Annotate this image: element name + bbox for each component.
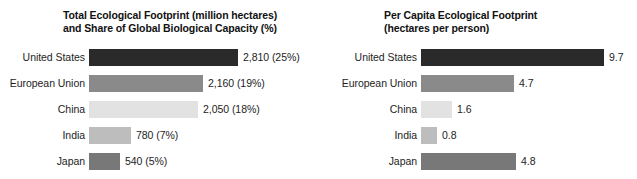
bar-united-states	[421, 49, 604, 66]
bar-value-label: 0.8	[442, 129, 456, 141]
bar-value-label: 4.7	[519, 77, 533, 89]
bar-china	[421, 101, 452, 118]
bar-row: India 780 (7%)	[0, 122, 320, 148]
chart-title-total-footprint: Total Ecological Footprint (million hect…	[63, 9, 277, 35]
category-label: India	[320, 129, 421, 141]
category-label: India	[0, 129, 89, 141]
bar-row: European Union 4.7	[320, 70, 637, 96]
bar-row: Japan 4.8	[320, 148, 637, 174]
bar-india	[89, 127, 131, 144]
category-label: Japan	[0, 155, 89, 167]
bar-value-label: 4.8	[521, 155, 535, 167]
category-label: Japan	[320, 155, 421, 167]
bar-track: 1.6	[421, 101, 637, 118]
bar-value-label: 2,810 (25%)	[243, 51, 300, 63]
category-label: China	[0, 103, 89, 115]
bar-india	[421, 127, 437, 144]
bar-united-states	[89, 49, 238, 66]
bar-value-label: 780 (7%)	[136, 129, 178, 141]
category-label: European Union	[0, 77, 89, 89]
bar-track: 540 (5%)	[89, 153, 320, 170]
bar-track: 4.8	[421, 153, 637, 170]
category-label: European Union	[320, 77, 421, 89]
bar-china	[89, 101, 198, 118]
bar-row: Japan 540 (5%)	[0, 148, 320, 174]
bar-japan	[89, 153, 120, 170]
bar-japan	[421, 153, 516, 170]
bar-european-union	[89, 75, 203, 92]
bar-rows-per-capita: United States 9.7 European Union 4.7 Chi…	[320, 44, 637, 174]
bar-track: 4.7	[421, 75, 637, 92]
bar-track: 2,810 (25%)	[89, 49, 320, 66]
chart-panel-per-capita-footprint: Per Capita Ecological Footprint (hectare…	[320, 0, 637, 179]
category-label: United States	[0, 51, 89, 63]
chart-panel-total-footprint: Total Ecological Footprint (million hect…	[0, 0, 320, 179]
bar-value-label: 2,160 (19%)	[208, 77, 265, 89]
bar-row: India 0.8	[320, 122, 637, 148]
bar-value-label: 1.6	[457, 103, 471, 115]
bar-track: 2,160 (19%)	[89, 75, 320, 92]
bar-track: 780 (7%)	[89, 127, 320, 144]
bar-row: China 1.6	[320, 96, 637, 122]
bar-track: 2,050 (18%)	[89, 101, 320, 118]
bar-european-union	[421, 75, 514, 92]
bar-row: China 2,050 (18%)	[0, 96, 320, 122]
bar-track: 0.8	[421, 127, 637, 144]
chart-title-per-capita-footprint: Per Capita Ecological Footprint (hectare…	[384, 9, 537, 35]
bar-row: European Union 2,160 (19%)	[0, 70, 320, 96]
bar-row: United States 9.7	[320, 44, 637, 70]
bar-track: 9.7	[421, 49, 637, 66]
category-label: China	[320, 103, 421, 115]
bar-value-label: 9.7	[609, 51, 623, 63]
ecological-footprint-figure: Total Ecological Footprint (million hect…	[0, 0, 637, 179]
bar-value-label: 2,050 (18%)	[203, 103, 260, 115]
category-label: United States	[320, 51, 421, 63]
bar-value-label: 540 (5%)	[125, 155, 167, 167]
bar-rows-total-footprint: United States 2,810 (25%) European Union…	[0, 44, 320, 174]
bar-row: United States 2,810 (25%)	[0, 44, 320, 70]
